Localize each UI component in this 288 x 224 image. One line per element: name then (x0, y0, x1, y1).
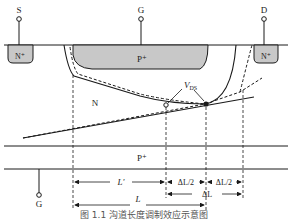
source-n-plus-label: N⁺ (15, 52, 25, 61)
vds-label: VDS (184, 80, 197, 91)
source-terminal-icon (17, 17, 22, 22)
delta-half-left-label: ΔL/2 (178, 178, 194, 187)
drain-n-plus-label: N⁺ (261, 52, 271, 61)
gate-bottom-terminal-icon (37, 193, 42, 198)
channel-boundary-dashed (23, 104, 205, 138)
gate-top-label: G (138, 5, 145, 15)
vds-point-open-icon (164, 103, 168, 107)
drain-label: D (261, 5, 268, 15)
delta-l-label: ΔL (202, 190, 212, 199)
drain-boundary-dashed (240, 45, 252, 92)
lprime-label: L' (117, 177, 126, 187)
vds-pointer-left (168, 89, 182, 103)
vds-point-filled-icon (203, 101, 208, 106)
vds-pointer-right (194, 90, 204, 101)
drain-terminal-icon (262, 17, 267, 22)
figure-caption: 图 1.1 沟道长度调制效应示意图 (0, 208, 288, 221)
gate-p-plus-label: P⁺ (137, 54, 147, 64)
jfet-channel-diagram: S N⁺ G P⁺ D N⁺ N VDS P⁺ G (0, 0, 288, 224)
source-label: S (16, 5, 21, 15)
delta-half-right-label: ΔL/2 (216, 178, 232, 187)
bottom-gate-p-plus-label: P⁺ (137, 153, 147, 163)
l-label: L (134, 194, 140, 204)
channel-n-label: N (92, 98, 99, 108)
gate-top-terminal-icon (139, 17, 144, 22)
